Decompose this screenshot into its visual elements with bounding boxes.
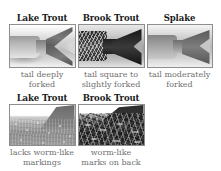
comparison-cell-lake-trout-back: Lake Trout lacks worm-like markings — [8, 93, 76, 167]
cell-title-lake-trout-tail: Lake Trout — [8, 13, 76, 23]
cell-title-brook-trout-tail: Brook Trout — [77, 13, 145, 23]
cell-title-brook-trout-back: Brook Trout — [77, 93, 145, 103]
brook-trout-back-photo — [78, 104, 145, 146]
comparison-cell-brook-trout-tail: Brook Trout tail square to slightly fork… — [77, 13, 145, 89]
comparison-cell-brook-trout-back: Brook Trout worm-like marks on back — [77, 93, 145, 167]
lake-trout-back-photo — [9, 104, 76, 146]
caption-lake-trout-tail: tail deeply forked — [8, 70, 76, 89]
brook-trout-tail-illustration — [79, 25, 144, 67]
caption-splake-tail: tail moderately forked — [146, 70, 213, 89]
cell-title-lake-trout-back: Lake Trout — [8, 93, 76, 103]
cell-title-splake-tail: Splake — [146, 13, 213, 23]
splake-tail-illustration — [148, 25, 212, 67]
caption-brook-trout-tail: tail square to slightly forked — [77, 70, 145, 89]
caption-brook-trout-back: worm-like marks on back — [77, 148, 145, 167]
trout-identification-figure: Lake Trout tail deeply forked Brook Trou… — [0, 0, 221, 171]
caption-lake-trout-back: lacks worm-like markings — [8, 148, 76, 167]
lake-trout-tail-photo — [9, 24, 76, 68]
splake-tail-photo — [147, 24, 213, 68]
brook-trout-tail-photo — [78, 24, 145, 68]
comparison-cell-lake-trout-tail: Lake Trout tail deeply forked — [8, 13, 76, 89]
comparison-cell-splake-tail: Splake tail moderately forked — [146, 13, 213, 89]
brook-trout-back-illustration — [79, 105, 144, 145]
lake-trout-back-illustration — [10, 105, 75, 145]
lake-trout-tail-illustration — [10, 25, 75, 67]
